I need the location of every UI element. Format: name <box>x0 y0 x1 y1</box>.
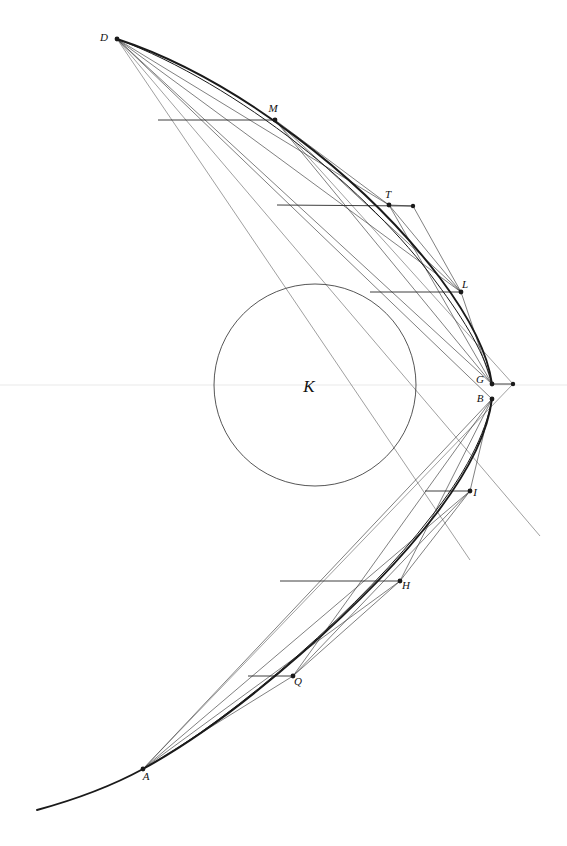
point-dot-G <box>490 382 495 387</box>
figure-root: KDMTLGBIHQA <box>0 0 567 846</box>
point-label-D: D <box>99 31 108 43</box>
point-label-H: H <box>401 579 411 591</box>
point-dot-M <box>273 118 278 123</box>
geometry-diagram: KDMTLGBIHQA <box>0 0 567 846</box>
point-label-G: G <box>476 373 484 385</box>
ray-end-dot-G <box>511 382 515 386</box>
point-dot-B <box>490 397 495 402</box>
point-dot-T <box>387 203 392 208</box>
point-label-T: T <box>385 188 392 200</box>
point-label-B: B <box>477 392 484 404</box>
point-label-M: M <box>267 102 278 114</box>
ray-end-dot-T <box>411 204 415 208</box>
point-label-A: A <box>142 770 150 782</box>
point-label-Q: Q <box>294 675 302 687</box>
point-label-L: L <box>461 278 468 290</box>
point-dot-L <box>459 290 464 295</box>
point-dot-I <box>468 489 473 494</box>
point-label-K: K <box>302 377 316 396</box>
point-dot-D <box>115 37 120 42</box>
